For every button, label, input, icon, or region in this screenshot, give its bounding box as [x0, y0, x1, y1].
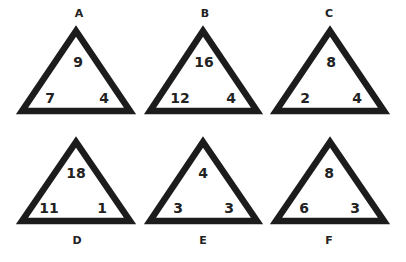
triangle-shape: [276, 142, 384, 221]
triangle-a: A 9 7 4: [22, 7, 130, 112]
triangle-d: 18 11 1 D: [22, 142, 130, 247]
triangle-f: 8 6 3 F: [276, 142, 384, 247]
triangle-e: 4 3 3 E: [150, 142, 257, 247]
triangle-left-number: 7: [45, 90, 55, 106]
triangle-top-number: 8: [326, 54, 336, 70]
triangle-shape: [22, 142, 130, 221]
triangle-label: D: [72, 234, 81, 247]
triangle-right-number: 4: [352, 90, 362, 106]
triangle-left-number: 2: [300, 90, 310, 106]
triangle-label: B: [201, 7, 209, 20]
triangle-shape: [150, 31, 257, 111]
triangle-top-number: 16: [194, 54, 213, 70]
triangle-right-number: 4: [226, 90, 236, 106]
triangle-top-number: 9: [73, 54, 83, 70]
triangle-label: A: [75, 7, 84, 20]
triangle-b: B 16 12 4: [150, 7, 257, 112]
triangle-left-number: 3: [173, 200, 183, 216]
triangle-puzzle: A 9 7 4 B 16 12 4 C 8 2 4 18 11 1 D 4 3 …: [0, 0, 406, 262]
triangle-left-number: 6: [299, 200, 309, 216]
triangle-shape: [276, 31, 384, 111]
triangle-top-number: 4: [198, 165, 208, 181]
triangle-right-number: 3: [224, 200, 234, 216]
triangle-c: C 8 2 4: [276, 7, 384, 112]
triangle-right-number: 4: [99, 90, 109, 106]
triangle-top-number: 8: [324, 165, 334, 181]
triangle-right-number: 1: [97, 200, 107, 216]
triangle-label: F: [325, 234, 333, 247]
triangle-left-number: 11: [39, 200, 58, 216]
triangle-left-number: 12: [170, 90, 189, 106]
triangle-label: E: [199, 234, 207, 247]
triangle-right-number: 3: [350, 200, 360, 216]
triangle-shape: [150, 142, 257, 221]
triangle-label: C: [325, 7, 333, 20]
triangle-shape: [22, 31, 130, 111]
triangle-top-number: 18: [66, 165, 85, 181]
